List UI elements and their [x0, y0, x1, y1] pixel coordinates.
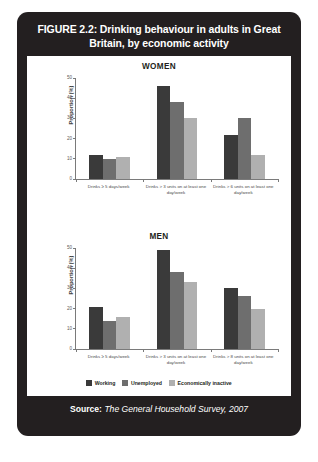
bar-group: [224, 78, 265, 179]
chart-men-plot: Proportion (%) 01020304050: [75, 248, 278, 350]
y-tick-label: 50: [61, 76, 72, 81]
chart-women-plot: Proportion (%) 01020304050: [75, 78, 278, 180]
bar: [157, 86, 171, 179]
bar-group: [157, 78, 198, 179]
bar: [238, 118, 252, 179]
figure-title: FIGURE 2.2: Drinking behaviour in adults…: [27, 21, 291, 50]
y-tick-label: 0: [61, 177, 72, 182]
bar: [170, 102, 184, 179]
source-label: Source:: [70, 404, 102, 414]
y-tick-label: 30: [61, 286, 72, 291]
x-tick-mark: [211, 349, 212, 352]
x-axis-label: Drinks > 3 units on at least one day/wee…: [145, 354, 207, 365]
chart-men-bars: [76, 248, 278, 349]
legend-label: Unemployed: [131, 380, 162, 386]
x-tick-mark: [143, 179, 144, 182]
bar: [184, 118, 198, 179]
x-tick-mark: [143, 349, 144, 352]
chart-women: WOMEN Proportion (%) 01020304050 Drinks …: [27, 56, 291, 226]
chart-women-x-ticks: [76, 179, 278, 182]
legend-swatch-icon: [86, 380, 92, 386]
y-tick-label: 10: [61, 327, 72, 332]
x-tick-mark: [278, 349, 279, 352]
bar-group: [224, 248, 265, 349]
x-axis-label: Drinks > 3 units on at least one day/wee…: [145, 184, 207, 195]
y-tick-label: 30: [61, 116, 72, 121]
bar: [103, 159, 117, 179]
chart-panel: WOMEN Proportion (%) 01020304050 Drinks …: [27, 56, 291, 396]
source-line: Source: The General Household Survey, 20…: [17, 404, 301, 415]
bar: [251, 309, 265, 349]
x-tick-mark: [76, 349, 77, 352]
source-text: The General Household Survey, 2007: [104, 404, 248, 414]
y-tick-label: 10: [61, 157, 72, 162]
y-tick-label: 20: [61, 137, 72, 142]
legend-item: Working: [86, 380, 115, 386]
bar: [170, 272, 184, 349]
bar: [116, 317, 130, 349]
y-tick-label: 40: [61, 96, 72, 101]
chart-men: MEN Proportion (%) 01020304050 Drinks ≥ …: [27, 226, 291, 396]
bar: [103, 321, 117, 349]
legend-swatch-icon: [122, 380, 128, 386]
x-axis-label: Drinks > 6 units on at least one day/wee…: [212, 184, 274, 195]
bar: [238, 296, 252, 349]
bar-group: [89, 248, 130, 349]
x-tick-mark: [278, 179, 279, 182]
chart-men-x-labels: Drinks ≥ 5 days/weekDrinks > 3 units on …: [75, 354, 277, 365]
bar: [184, 282, 198, 349]
x-tick-mark: [211, 179, 212, 182]
chart-legend: WorkingUnemployedEconomically inactive: [27, 380, 291, 386]
chart-women-title: WOMEN: [27, 62, 291, 71]
y-tick-label: 20: [61, 307, 72, 312]
bar: [116, 157, 130, 179]
bar: [157, 250, 171, 349]
figure-card: FIGURE 2.2: Drinking behaviour in adults…: [17, 12, 301, 436]
legend-swatch-icon: [169, 380, 175, 386]
bar: [251, 155, 265, 179]
x-axis-label: Drinks ≥ 5 days/week: [78, 354, 140, 365]
bar-group: [89, 78, 130, 179]
x-axis-label: Drinks ≥ 5 days/week: [78, 184, 140, 195]
x-axis-label: Drinks > 8 units on at least one day/wee…: [212, 354, 274, 365]
chart-women-y-axis-label: Proportion (%): [68, 74, 74, 136]
legend-label: Economically inactive: [178, 380, 232, 386]
chart-women-bars: [76, 78, 278, 179]
y-tick-label: 50: [61, 246, 72, 251]
bar: [224, 288, 238, 349]
legend-label: Working: [95, 380, 116, 386]
bar-group: [157, 248, 198, 349]
chart-women-x-labels: Drinks ≥ 5 days/weekDrinks > 3 units on …: [75, 184, 277, 195]
chart-men-x-ticks: [76, 349, 278, 352]
legend-item: Economically inactive: [169, 380, 232, 386]
bar: [224, 135, 238, 179]
chart-men-title: MEN: [27, 232, 291, 241]
y-tick-label: 40: [61, 266, 72, 271]
x-tick-mark: [76, 179, 77, 182]
chart-men-y-axis-label: Proportion (%): [68, 244, 74, 306]
bar: [89, 155, 103, 179]
legend-item: Unemployed: [122, 380, 162, 386]
y-tick-label: 0: [61, 347, 72, 352]
bar: [89, 307, 103, 349]
